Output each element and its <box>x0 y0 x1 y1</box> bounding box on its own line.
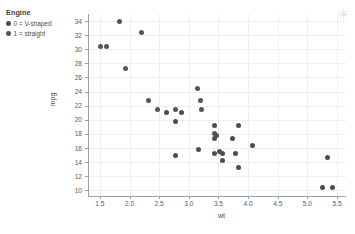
scatter-point[interactable] <box>155 107 160 112</box>
y-axis-tick-label: 30 <box>62 46 82 53</box>
y-axis-tick-label: 28 <box>62 60 82 67</box>
x-axis-tick-label: 4.5 <box>266 200 290 207</box>
y-axis-tick <box>85 190 88 191</box>
x-axis-tick-label: 2.0 <box>118 200 142 207</box>
gridline-vertical <box>337 14 338 196</box>
y-axis-tick-label: 20 <box>62 116 82 123</box>
y-axis-tick <box>85 148 88 149</box>
scatter-point[interactable] <box>212 151 217 156</box>
y-axis-tick-label: 22 <box>62 102 82 109</box>
y-axis-tick-label: 16 <box>62 145 82 152</box>
x-axis-tick-label: 5.5 <box>325 200 349 207</box>
x-axis-tick <box>100 196 101 199</box>
x-axis-tick <box>130 196 131 199</box>
gridline-vertical <box>218 14 219 196</box>
y-axis-tick <box>85 49 88 50</box>
scatter-point[interactable] <box>198 98 203 103</box>
scatter-point[interactable] <box>164 110 169 115</box>
y-axis-tick <box>85 120 88 121</box>
y-axis-tick-label: 34 <box>62 18 82 25</box>
scatter-point[interactable] <box>146 98 151 103</box>
x-axis-tick <box>337 196 338 199</box>
x-axis-label: wt <box>0 212 355 219</box>
y-axis-tick <box>85 106 88 107</box>
gridline-vertical <box>307 14 308 196</box>
scatter-point[interactable] <box>98 44 103 49</box>
scatter-point[interactable] <box>173 153 178 158</box>
x-axis-tick <box>189 196 190 199</box>
x-axis-tick <box>218 196 219 199</box>
scatter-point[interactable] <box>179 110 184 115</box>
scatter-point[interactable] <box>233 151 238 156</box>
scatter-point[interactable] <box>236 165 241 170</box>
y-axis-tick-label: 32 <box>62 32 82 39</box>
scatter-point[interactable] <box>139 30 144 35</box>
scatter-point[interactable] <box>173 119 178 124</box>
scatter-point[interactable] <box>199 107 204 112</box>
x-axis-tick <box>248 196 249 199</box>
gridline-vertical <box>159 14 160 196</box>
scatter-point[interactable] <box>123 66 128 71</box>
scatter-point[interactable] <box>320 185 325 190</box>
x-axis-tick-label: 2.5 <box>147 200 171 207</box>
y-axis-tick <box>85 176 88 177</box>
x-axis-tick-label: 3.5 <box>206 200 230 207</box>
y-axis-tick <box>85 21 88 22</box>
y-axis-tick-label: 14 <box>62 159 82 166</box>
y-axis-tick-label: 10 <box>62 187 82 194</box>
legend-label-vshaped: 0 = V-shaped <box>14 19 52 28</box>
scatter-point[interactable] <box>330 185 335 190</box>
scatter-point[interactable] <box>220 158 225 163</box>
legend-label-straight: 1 = straight <box>14 29 46 38</box>
legend-swatch-vshaped <box>6 21 11 26</box>
scatter-point[interactable] <box>230 136 235 141</box>
gridline-vertical <box>248 14 249 196</box>
x-axis-tick-label: 1.5 <box>88 200 112 207</box>
x-axis-tick <box>159 196 160 199</box>
y-axis-tick <box>85 63 88 64</box>
gridline-vertical <box>100 14 101 196</box>
scatter-point[interactable] <box>236 123 241 128</box>
y-axis-tick <box>85 134 88 135</box>
scatter-point[interactable] <box>196 147 201 152</box>
scatter-point[interactable] <box>104 44 109 49</box>
scatter-point[interactable] <box>117 19 122 24</box>
x-axis-tick <box>307 196 308 199</box>
x-axis-tick <box>278 196 279 199</box>
legend-title: Engine <box>6 8 78 18</box>
legend-swatch-straight <box>6 31 11 36</box>
scatter-point[interactable] <box>212 123 217 128</box>
y-axis-line <box>88 14 89 196</box>
gridline-vertical <box>130 14 131 196</box>
y-axis-tick <box>85 35 88 36</box>
plot-area <box>88 14 346 196</box>
x-axis-tick-label: 4.0 <box>236 200 260 207</box>
y-axis-tick-label: 18 <box>62 130 82 137</box>
gridline-vertical <box>278 14 279 196</box>
gridline-vertical <box>189 14 190 196</box>
x-axis-tick-label: 3.0 <box>177 200 201 207</box>
scatter-point[interactable] <box>212 136 217 141</box>
y-axis-tick <box>85 77 88 78</box>
y-axis-tick <box>85 92 88 93</box>
scatter-point[interactable] <box>195 86 200 91</box>
scatter-point[interactable] <box>250 143 255 148</box>
scatter-point[interactable] <box>173 107 178 112</box>
y-axis-tick-label: 12 <box>62 173 82 180</box>
y-axis-tick-label: 24 <box>62 88 82 95</box>
chart-canvas: Engine 0 = V-shaped 1 = straight mpg wt … <box>0 0 355 234</box>
scatter-point[interactable] <box>325 155 330 160</box>
x-axis-tick-label: 5.0 <box>295 200 319 207</box>
y-axis-tick-label: 26 <box>62 74 82 81</box>
y-axis-label: mpg <box>49 93 56 107</box>
y-axis-tick <box>85 162 88 163</box>
